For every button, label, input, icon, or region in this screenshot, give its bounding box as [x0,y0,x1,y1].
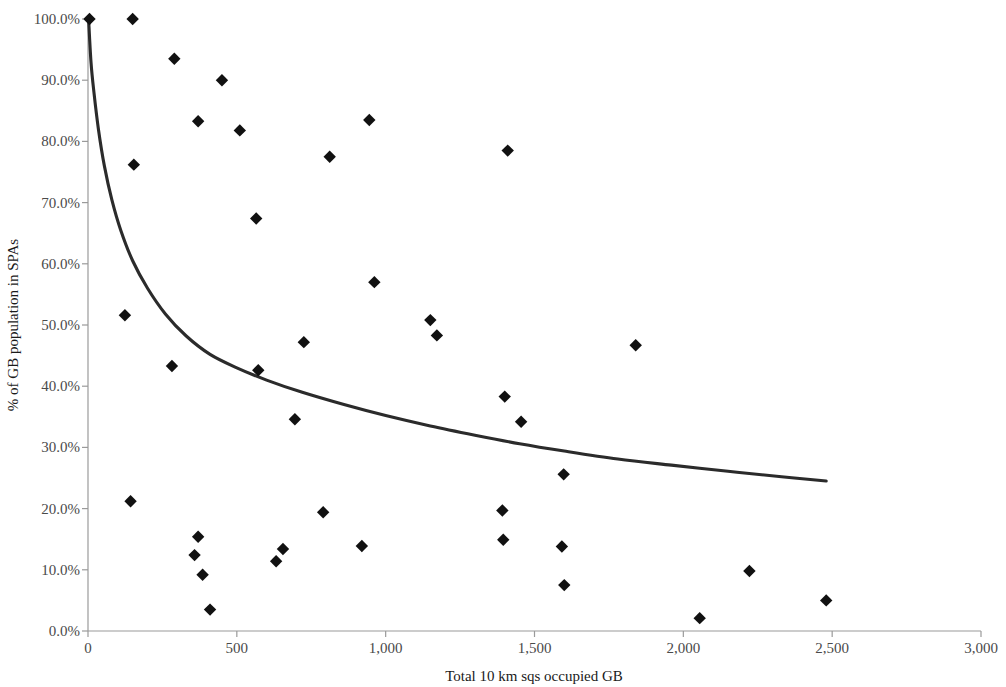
data-point-marker [289,413,301,425]
data-point-marker [270,555,282,567]
data-point-marker [496,504,508,516]
y-tick-label: 30.0% [41,439,80,455]
data-point-marker [499,390,511,402]
y-tick-label: 100.0% [34,11,80,27]
data-point-marker [124,495,136,507]
x-tick-label: 3,000 [964,640,998,656]
data-point-marker [424,314,436,326]
x-tick-label: 2,500 [815,640,849,656]
data-point-marker [317,506,329,518]
x-axis-title: Total 10 km sqs occupied GB [445,668,623,684]
data-point-marker [497,534,509,546]
data-point-marker [298,336,310,348]
x-tick-label: 500 [226,640,249,656]
data-point-marker [694,612,706,624]
y-axis-title: % of GB population in SPAs [5,239,21,412]
y-tick-label: 40.0% [41,378,80,394]
data-point-marker [363,114,375,126]
scatter-plot: 0.0%10.0%20.0%30.0%40.0%50.0%60.0%70.0%8… [0,0,1006,687]
data-point-marker [250,212,262,224]
data-point-marker [515,415,527,427]
y-tick-label: 80.0% [41,133,80,149]
data-point-marker [83,13,95,25]
data-point-marker [168,53,180,65]
data-point-marker [192,531,204,543]
data-point-marker [820,594,832,606]
data-point-marker [277,543,289,555]
data-point-marker [216,74,228,86]
data-point-marker [166,360,178,372]
data-point-marker [119,309,131,321]
data-point-marker [128,158,140,170]
data-point-marker [204,603,216,615]
y-tick-label: 0.0% [49,623,80,639]
y-tick-label: 90.0% [41,72,80,88]
x-axis-tick-labels: 05001,0001,5002,0002,5003,000 [84,640,998,656]
data-point-marker [557,468,569,480]
data-point-marker [356,540,368,552]
data-point-marker [502,144,514,156]
data-point-marker [126,13,138,25]
data-point-marker [556,540,568,552]
y-tick-label: 10.0% [41,562,80,578]
data-point-marker [630,339,642,351]
y-tick-label: 50.0% [41,317,80,333]
chart-page: 0.0%10.0%20.0%30.0%40.0%50.0%60.0%70.0%8… [0,0,1006,687]
data-point-marker [558,579,570,591]
x-tick-label: 1,500 [518,640,552,656]
data-points [83,13,832,625]
y-axis-tick-marks [82,19,88,631]
data-point-marker [743,565,755,577]
x-tick-label: 1,000 [369,640,403,656]
data-point-marker [234,124,246,136]
data-point-marker [368,276,380,288]
data-point-marker [324,151,336,163]
data-point-marker [192,115,204,127]
y-axis-tick-labels: 0.0%10.0%20.0%30.0%40.0%50.0%60.0%70.0%8… [34,11,80,639]
y-tick-label: 60.0% [41,256,80,272]
x-axis-tick-marks [88,631,981,637]
x-tick-label: 2,000 [666,640,700,656]
data-point-marker [431,329,443,341]
trend-line [89,19,827,481]
y-tick-label: 20.0% [41,501,80,517]
data-point-marker [196,568,208,580]
data-point-marker [188,549,200,561]
x-tick-label: 0 [84,640,92,656]
y-tick-label: 70.0% [41,195,80,211]
